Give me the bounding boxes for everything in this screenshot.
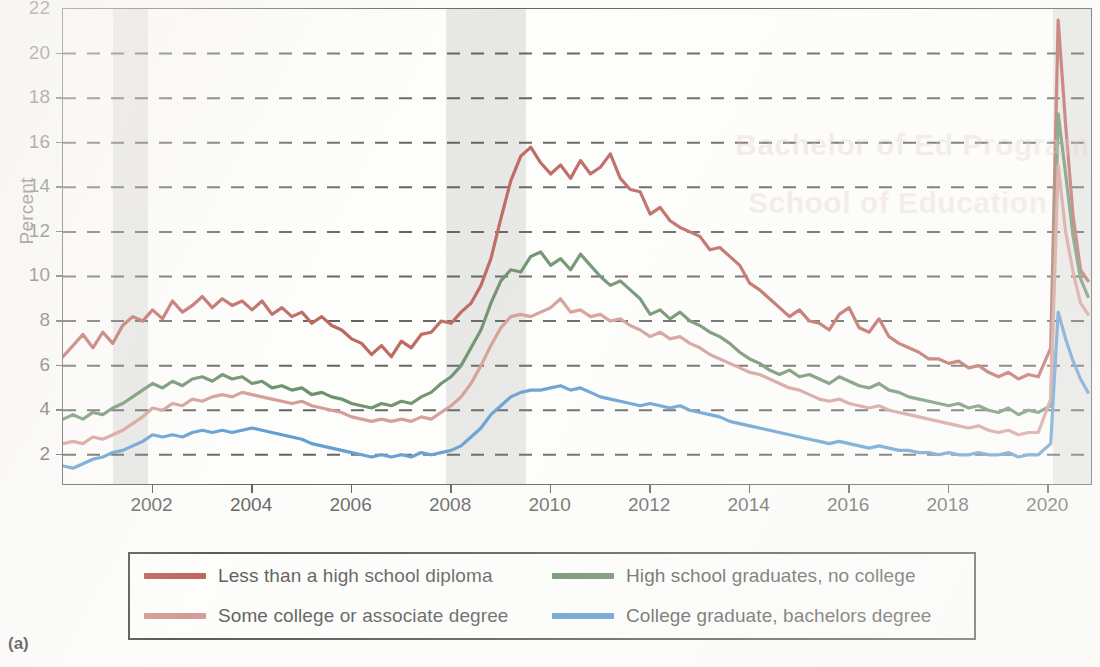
series-canvas <box>63 9 1092 485</box>
x-tick-mark-2014 <box>749 485 751 493</box>
legend-item-1[interactable]: High school graduates, no college <box>552 565 960 587</box>
y-tick-label-18: 18 <box>6 86 50 108</box>
legend-item-3[interactable]: College graduate, bachelors degree <box>552 605 960 627</box>
y-tick-label-12: 12 <box>6 220 50 242</box>
chart-legend: Less than a high school diploma High sch… <box>128 552 976 640</box>
series-line-3 <box>63 312 1088 468</box>
x-tick-mark-2006 <box>351 485 353 493</box>
legend-label-2: Some college or associate degree <box>218 605 508 627</box>
x-tick-label-2004: 2004 <box>221 494 281 516</box>
x-tick-mark-2012 <box>649 485 651 493</box>
y-tick-label-14: 14 <box>6 175 50 197</box>
x-tick-mark-2020 <box>1047 485 1049 493</box>
y-tick-label-2: 2 <box>6 443 50 465</box>
series-line-1 <box>63 114 1088 419</box>
y-tick-label-6: 6 <box>6 354 50 376</box>
x-tick-label-2010: 2010 <box>520 494 580 516</box>
legend-swatch-some-college <box>144 613 206 619</box>
x-tick-mark-2010 <box>550 485 552 493</box>
unemployment-by-education-figure: Bachelor of Ed Program School of Educati… <box>0 0 1100 667</box>
x-tick-mark-2002 <box>152 485 154 493</box>
x-tick-label-2002: 2002 <box>122 494 182 516</box>
y-tick-label-10: 10 <box>6 264 50 286</box>
x-tick-mark-2016 <box>848 485 850 493</box>
y-tick-label-4: 4 <box>6 398 50 420</box>
x-tick-label-2008: 2008 <box>420 494 480 516</box>
x-tick-label-2016: 2016 <box>818 494 878 516</box>
series-line-0 <box>63 20 1088 379</box>
legend-item-2[interactable]: Some college or associate degree <box>144 605 552 627</box>
plot-area <box>62 8 1092 485</box>
y-tick-label-8: 8 <box>6 309 50 331</box>
x-tick-label-2018: 2018 <box>918 494 978 516</box>
x-tick-mark-2018 <box>948 485 950 493</box>
x-tick-label-2020: 2020 <box>1017 494 1077 516</box>
x-tick-mark-2004 <box>251 485 253 493</box>
legend-item-0[interactable]: Less than a high school diploma <box>144 565 552 587</box>
x-tick-label-2012: 2012 <box>619 494 679 516</box>
legend-swatch-college-graduate <box>552 613 614 619</box>
legend-swatch-high-school-graduates <box>552 573 614 579</box>
y-tick-label-22: 22 <box>6 0 50 19</box>
y-tick-label-16: 16 <box>6 131 50 153</box>
x-tick-label-2006: 2006 <box>321 494 381 516</box>
x-tick-mark-2008 <box>450 485 452 493</box>
legend-label-1: High school graduates, no college <box>626 565 916 587</box>
x-tick-label-2014: 2014 <box>719 494 779 516</box>
y-tick-label-20: 20 <box>6 42 50 64</box>
legend-swatch-less-than-high-school <box>144 573 206 579</box>
panel-label: (a) <box>8 634 29 654</box>
legend-label-3: College graduate, bachelors degree <box>626 605 932 627</box>
legend-label-0: Less than a high school diploma <box>218 565 493 587</box>
